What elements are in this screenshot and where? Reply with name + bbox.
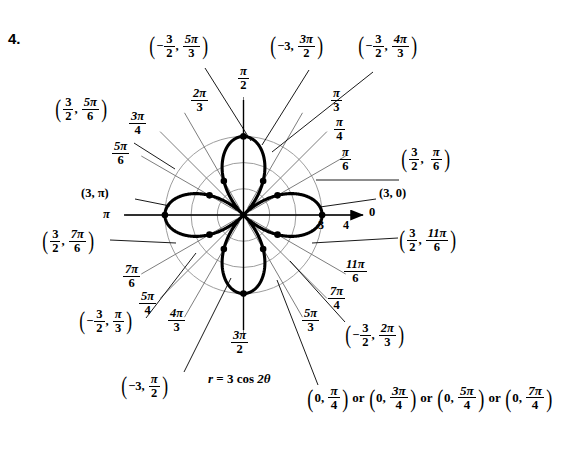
axis-tick-3: 3 (318, 219, 324, 231)
angle-label-pi-over-3: π3 (330, 88, 343, 115)
marked-point (221, 178, 228, 185)
marked-point (260, 246, 267, 253)
angle-label-pi-over-2: π2 (237, 66, 250, 93)
point-label-neg-3-halves-2pi-3: (−32, 2π3) (344, 323, 405, 350)
marked-point (206, 231, 213, 238)
angle-label-5pi-over-3: 5π3 (301, 308, 320, 335)
marked-point (221, 246, 228, 253)
point-label-neg-3-halves-4pi-3: (−32, 4π3) (357, 34, 418, 61)
angle-label-3pi-over-2: 3π2 (230, 330, 249, 357)
marked-point (240, 290, 247, 297)
marked-point (162, 212, 169, 219)
point-label-neg-3-3pi-2: (−3, 3π2) (269, 34, 324, 61)
marked-point (274, 192, 281, 199)
marked-point (274, 231, 281, 238)
angle-label-pi-over-6: π6 (339, 147, 352, 174)
axis-tick-4: 4 (343, 219, 349, 231)
spoke-315 (249, 221, 327, 299)
spoke-45 (249, 132, 327, 210)
spoke-135 (160, 132, 238, 210)
point-label-3-halves-5pi-6: (32, 5π6) (54, 97, 108, 124)
point-label-neg-3-halves-5pi-3: (−32, 5π3) (148, 34, 209, 61)
point-label-3-pi: (3, π) (81, 187, 109, 200)
angle-label-pi: π (103, 208, 110, 221)
equation-label: r = 3 cos 2θ (208, 372, 271, 385)
pole-point (240, 212, 247, 219)
problem-number: 4. (8, 30, 21, 47)
point-label-3-0: (3, 0) (379, 187, 406, 200)
pole-points-label: (0, π4) or (0, 3π4) or (0, 5π4) or (0, 7… (306, 385, 553, 413)
angle-label-3pi-over-4: 3π4 (128, 111, 147, 138)
point-label-3-halves-7pi-6: (32, 7π6) (41, 229, 95, 256)
point-label-3-halves-11pi-6: (32, 11π6) (398, 228, 457, 255)
marked-point (206, 192, 213, 199)
marked-point (240, 133, 247, 140)
point-label-neg-3-halves-pi-3: (−32, π3) (78, 309, 133, 336)
angle-label-7pi-over-4: 7π4 (327, 286, 346, 313)
point-label-neg-3-pi-2: (−3, π2) (120, 374, 169, 401)
angle-label-4pi-over-3: 4π3 (167, 308, 186, 335)
angle-label-zero: 0 (369, 206, 375, 219)
angle-label-2pi-over-3: 2π3 (190, 88, 209, 115)
angle-label-5pi-over-6: 5π6 (111, 141, 130, 168)
angle-label-pi-over-4: π4 (333, 117, 346, 144)
angle-label-7pi-over-6: 7π6 (122, 264, 141, 291)
angle-label-5pi-over-4: 5π4 (138, 291, 157, 318)
marked-point (260, 178, 267, 185)
angle-label-11pi-over-6: 11π6 (343, 259, 368, 286)
point-label-3-halves-pi-6: (32, π6) (400, 147, 451, 174)
